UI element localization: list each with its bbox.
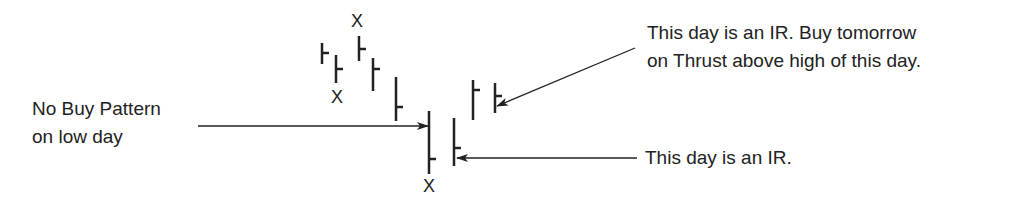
label-line: on low day (32, 123, 161, 151)
arrows (198, 48, 637, 158)
x-marker-high: X (351, 7, 363, 35)
diagram-canvas: X X X No Buy Pattern on low day This day… (0, 0, 1011, 204)
label-line: No Buy Pattern (32, 95, 161, 123)
label-no-buy-pattern: No Buy Pattern on low day (32, 95, 161, 151)
label-line: This day is an IR. Buy tomorrow (647, 19, 921, 47)
label-ir-day: This day is an IR. (645, 144, 792, 172)
x-marker-low: X (423, 172, 435, 200)
label-line: on Thrust above high of this day. (647, 47, 921, 75)
price-bars (322, 36, 502, 174)
x-marker-swing-low: X (331, 83, 343, 111)
label-ir-buy-tomorrow: This day is an IR. Buy tomorrow on Thrus… (647, 19, 921, 75)
arrow-top-right (497, 48, 635, 106)
